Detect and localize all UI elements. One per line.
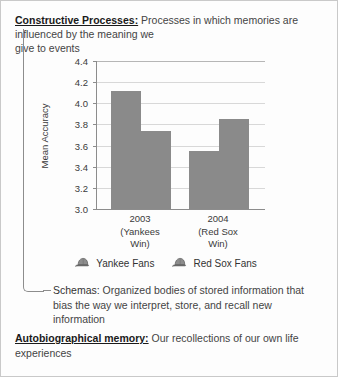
- legend-label: Red Sox Fans: [193, 258, 256, 269]
- y-axis-label: Mean Accuracy: [39, 91, 50, 181]
- bar: [111, 91, 141, 209]
- plot-area: [96, 61, 265, 210]
- y-axis-tickmark: [93, 61, 97, 62]
- concept-summary-card: Constructive Processes: Processes in whi…: [0, 0, 338, 377]
- bar: [141, 131, 171, 209]
- y-axis-tick-label: 4.0: [75, 98, 88, 109]
- y-axis-tick-label: 3.6: [75, 140, 88, 151]
- y-axis-tick-label: 4.4: [75, 56, 88, 67]
- legend-item: Yankee Fans: [75, 257, 154, 270]
- mean-accuracy-bar-chart: Mean Accuracy 4.44.24.03.83.63.43.23.0 2…: [47, 61, 287, 276]
- definition-line: Our recollections of our own: [152, 332, 283, 344]
- y-axis-ticks: 4.44.24.03.83.63.43.23.0: [63, 61, 91, 209]
- y-axis-tickmark: [93, 103, 97, 104]
- y-axis-tickmark: [93, 82, 97, 83]
- y-axis-tickmark: [93, 188, 97, 189]
- bar: [219, 119, 249, 209]
- y-axis-tick-label: 3.0: [75, 204, 88, 215]
- baseball-cap-icon: [75, 257, 91, 270]
- definition-line: Organized bodies of stored information: [103, 284, 284, 296]
- legend-item: Red Sox Fans: [172, 257, 256, 270]
- gridline: [97, 61, 265, 62]
- x-axis-group-label: 2004(Red Sox Win): [188, 213, 248, 251]
- term-autobiographical-memory: Autobiographical memory:: [15, 332, 149, 344]
- term-constructive-processes: Constructive Processes:: [15, 14, 138, 26]
- x-axis-sublabel: (Red Sox Win): [188, 226, 248, 251]
- y-axis-tick-label: 3.4: [75, 161, 88, 172]
- y-axis-tick-label: 3.2: [75, 182, 88, 193]
- x-axis-group-label: 2003(Yankees Win): [110, 213, 170, 251]
- y-axis-tickmark: [93, 124, 97, 125]
- x-axis-year: 2003: [110, 213, 170, 226]
- y-axis-tickmark: [93, 167, 97, 168]
- bracket-connector-tail: [43, 290, 51, 291]
- legend-label: Yankee Fans: [96, 258, 154, 269]
- gridline: [97, 82, 265, 83]
- term-schemas: Schemas:: [53, 284, 100, 296]
- bar: [189, 151, 219, 209]
- definition-line: Processes in which memories are: [141, 14, 298, 26]
- y-axis-tick-label: 4.2: [75, 77, 88, 88]
- chart-legend: Yankee FansRed Sox Fans: [41, 253, 291, 273]
- x-axis-sublabel: (Yankees Win): [110, 226, 170, 251]
- x-axis-year: 2004: [188, 213, 248, 226]
- entry-constructive-processes: Constructive Processes: Processes in whi…: [15, 13, 327, 55]
- entry-schemas: Schemas: Organized bodies of stored info…: [53, 283, 325, 327]
- x-axis-labels: 2003(Yankees Win)2004(Red Sox Win): [96, 213, 264, 241]
- y-axis-tick-label: 3.8: [75, 119, 88, 130]
- y-axis-tickmark: [93, 209, 97, 210]
- entry-autobiographical-memory: Autobiographical memory: Our recollectio…: [15, 331, 327, 360]
- baseball-cap-icon: [172, 257, 188, 270]
- y-axis-tickmark: [93, 146, 97, 147]
